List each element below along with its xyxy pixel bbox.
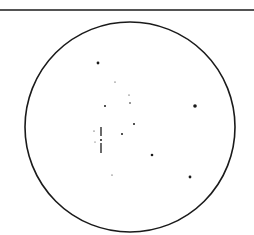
star-group xyxy=(93,62,196,179)
star-dot xyxy=(114,81,115,82)
eyepiece-field-circle xyxy=(25,22,235,232)
star-field-figure xyxy=(0,0,254,235)
star-dot xyxy=(93,130,94,131)
star-dot xyxy=(95,142,96,143)
star-dot xyxy=(111,174,112,175)
star-dot xyxy=(193,104,197,108)
star-dot xyxy=(128,94,129,95)
star-dot xyxy=(133,123,135,125)
star-dot xyxy=(104,105,106,107)
star-dot xyxy=(129,102,131,104)
star-dot xyxy=(121,133,123,135)
star-dot xyxy=(100,139,102,141)
star-dot xyxy=(97,62,100,65)
star-dot xyxy=(189,176,192,179)
star-dot xyxy=(151,154,154,157)
